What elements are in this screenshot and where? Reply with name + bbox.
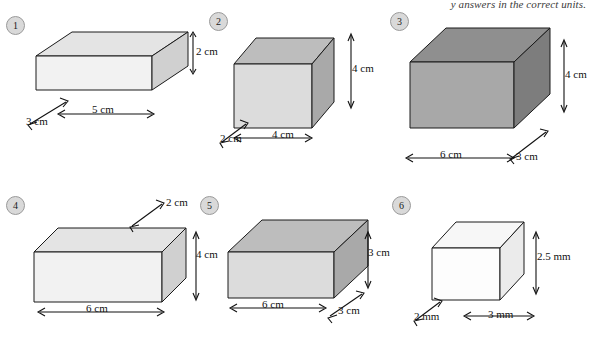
- figure-badge-4: 4: [6, 196, 25, 215]
- figure-badge-2: 2: [209, 12, 228, 31]
- dimension-arrow-5-height: [358, 228, 390, 298]
- figure-badge-5: 5: [200, 196, 219, 215]
- worksheet-page: y answers in the correct units. 1 2 cm 5…: [0, 0, 592, 347]
- figure-6-label-depth: 2 mm: [414, 310, 439, 322]
- figure-5-label-length: 6 cm: [262, 298, 284, 310]
- top-instruction-text: y answers in the correct units.: [451, 0, 586, 10]
- figure-5-label-height: 3 cm: [368, 246, 390, 258]
- dimension-arrow-2-height: [341, 30, 373, 120]
- figure-3-label-depth: 3 cm: [516, 150, 538, 162]
- figure-2-label-height: 4 cm: [352, 62, 374, 74]
- figure-4-label-depth: 2 cm: [166, 196, 188, 208]
- figure-1-label-depth: 3 cm: [26, 115, 48, 127]
- dimension-arrow-3-height: [556, 36, 586, 126]
- dimension-arrow-6-height: [528, 228, 560, 304]
- figure-4-label-length: 6 cm: [86, 302, 108, 314]
- figure-3-label-length: 6 cm: [440, 148, 462, 160]
- figure-2-label-width: 4 cm: [272, 128, 294, 140]
- figure-1-label-height: 2 cm: [196, 45, 218, 57]
- figure-4-label-height: 4 cm: [196, 248, 218, 260]
- figure-3-label-height: 4 cm: [565, 68, 587, 80]
- figure-badge-6: 6: [392, 196, 411, 215]
- dimension-arrow-4-height: [186, 228, 218, 308]
- figure-2-label-depth: 2 cm: [220, 132, 242, 144]
- figure-6-label-width: 3 mm: [488, 308, 513, 320]
- dimension-arrow-1-height: [185, 30, 217, 90]
- figure-1-label-length: 5 cm: [92, 103, 114, 115]
- figure-5-label-depth: 3 cm: [338, 304, 360, 316]
- figure-badge-1: 1: [6, 16, 25, 35]
- figure-6-label-height: 2.5 mm: [537, 250, 571, 262]
